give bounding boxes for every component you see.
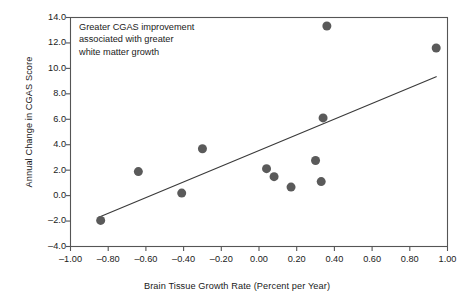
chart-annotation: Greater CGAS improvement associated with… [79, 21, 194, 58]
scatter-plot-figure: –4.0–2.00.02.04.06.08.010.012.014.0 –1.0… [0, 0, 474, 302]
x-axis-tick-labels: –1.00–0.80–0.60–0.40–0.200.000.200.400.6… [0, 0, 474, 302]
x-axis-title: Brain Tissue Growth Rate (Percent per Ye… [0, 281, 474, 291]
y-axis-title: Annual Change in CGAS Score [24, 22, 34, 222]
x-tick-label: 1.00 [425, 255, 471, 264]
